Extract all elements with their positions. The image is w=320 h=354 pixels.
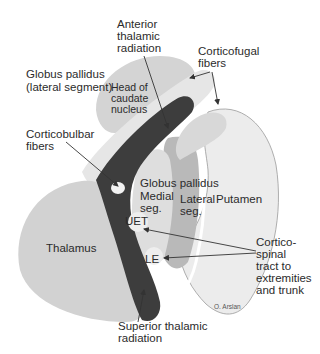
- label-head-of-caudate-nucleus: Head of caudate nucleus: [111, 81, 151, 115]
- label-superior-thalamic-radiation: Superior thalamic radiation: [118, 320, 211, 344]
- label-anterior-thalamic-radiation: Anterior thalamic radiation: [117, 18, 163, 54]
- label-globus-pallidus: Globus pallidus: [140, 177, 219, 189]
- label-le: LE: [145, 253, 159, 265]
- label-putamen: Putamen: [216, 193, 262, 205]
- label-thalamus: Thalamus: [46, 242, 97, 254]
- corticobulbar-spot: [111, 182, 125, 194]
- label-globus-pallidus-lateral-segment: Globus pallidus (lateral segment): [26, 68, 112, 93]
- label-uet: UET: [125, 215, 148, 227]
- internal-capsule-diagram: Anterior thalamic radiation Corticofugal…: [0, 0, 320, 354]
- label-corticospinal-tract: Cortico- spinal tract to extremities and…: [256, 236, 315, 296]
- label-corticofugal-fibers: Corticofugal fibers: [198, 45, 263, 69]
- author-credit: O. Arslan: [214, 303, 241, 310]
- label-corticobulbar-fibers: Corticobulbar fibers: [26, 128, 98, 152]
